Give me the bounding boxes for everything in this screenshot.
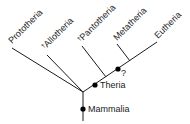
allotheria-label: †Allotheria: [39, 15, 75, 51]
metatheria-label: Metatheria: [111, 5, 148, 42]
pantotheria-label: †Pantotheria: [75, 2, 117, 44]
prototheria-label: Prototheria: [6, 7, 44, 45]
cladogram-svg: Mammalia Theria ? Prototheria †Allotheri…: [0, 0, 190, 124]
theria-label: Theria: [100, 80, 126, 90]
pantotheria-branch: [82, 46, 106, 77]
metatheria-branch: [117, 44, 130, 61]
theria-node: [92, 82, 97, 87]
mammalia-node: [80, 106, 85, 111]
mammalia-label: Mammalia: [88, 104, 130, 114]
eutheria-label: Eutheria: [152, 10, 183, 41]
unnamed-node: [115, 66, 120, 71]
prototheria-branch: [12, 48, 83, 92]
cladogram: Mammalia Theria ? Prototheria †Allotheri…: [0, 0, 190, 124]
unnamed-node-label: ?: [121, 68, 126, 78]
